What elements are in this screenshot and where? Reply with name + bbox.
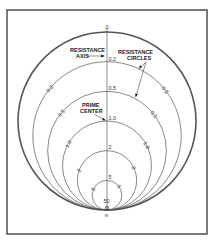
axis-label-0-2: 0.2: [109, 56, 117, 62]
axis-label-50: 50: [104, 198, 110, 204]
right-circle-label-0-2: 0.2: [161, 85, 171, 95]
right-circle-label-1-0: 1.0: [142, 140, 151, 150]
axis-label-1-0: 1.0: [109, 115, 117, 121]
resistance-circles-arrowhead-1: [139, 65, 142, 69]
axis-label-2: 2: [109, 144, 112, 150]
resistance-axis-arrowhead: [101, 55, 105, 58]
resistance-circles-diagram: 00.20.20.20.50.50.51.01.01.0222555500∞ R…: [0, 0, 218, 245]
prime-center-label-line2: CENTER: [80, 108, 103, 114]
left-circle-label-1-0: 1.0: [64, 139, 73, 149]
bottom-label-zero: 0: [106, 205, 109, 211]
axis-label-0-5: 0.5: [109, 85, 117, 91]
left-circle-label-5: 5: [90, 186, 97, 192]
axis-label-5: 5: [109, 174, 112, 180]
right-circle-label-0-5: 0.5: [149, 109, 159, 119]
resistance-circles-label-line2: CIRCLES: [127, 55, 151, 61]
prime-center-arrowhead: [102, 118, 106, 121]
left-circle-label-2: 2: [75, 168, 82, 173]
right-circle-label-2: 2: [131, 165, 138, 170]
right-circle-label-5: 5: [116, 184, 123, 190]
resistance-circles-arrowhead-2: [135, 94, 138, 98]
bottom-label-infinity: ∞: [105, 212, 109, 218]
axis-label-0: 0: [106, 24, 109, 30]
